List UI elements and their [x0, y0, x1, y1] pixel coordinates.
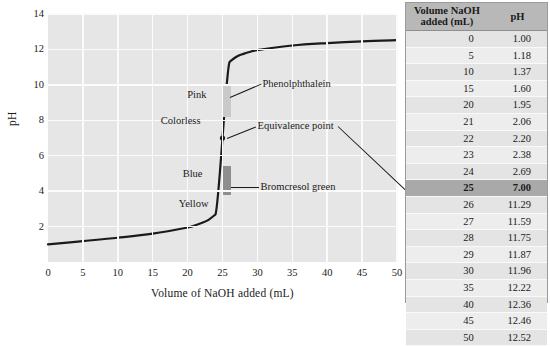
plot-area	[48, 14, 397, 262]
cell-ph: 2.20	[488, 130, 547, 147]
cell-ph: 12.22	[488, 279, 547, 296]
gridline-vertical	[117, 14, 119, 262]
cell-ph: 11.29	[488, 196, 547, 213]
table-row: 101.37	[406, 64, 547, 81]
table-row: 151.60	[406, 80, 547, 97]
cell-volume: 23	[406, 147, 488, 164]
cell-volume: 24	[406, 163, 488, 180]
table-row: 5012.52	[406, 329, 547, 346]
cell-ph: 1.95	[488, 97, 547, 114]
table-header-row: Volume NaOH added (mL) pH	[406, 3, 547, 31]
table-row: 51.18	[406, 47, 547, 64]
y-tick-label: 12	[4, 44, 44, 54]
x-tick-label: 45	[347, 268, 377, 278]
x-axis-ticks: 05101520253035404550	[48, 268, 397, 282]
header-volume-line2: added (mL)	[420, 16, 473, 27]
gridline-horizontal	[48, 155, 397, 157]
cell-ph: 2.69	[488, 163, 547, 180]
cell-volume: 21	[406, 113, 488, 130]
table-row: 201.95	[406, 97, 547, 114]
table-head: Volume NaOH added (mL) pH	[406, 3, 547, 31]
equivalence-point-annotation: Equivalence point	[258, 120, 334, 131]
gridline-horizontal	[48, 49, 397, 51]
x-tick-label: 35	[277, 268, 307, 278]
cell-ph: 11.75	[488, 230, 547, 247]
gridline-vertical	[187, 14, 189, 262]
label-pink: Pink	[0, 89, 207, 100]
header-ph: pH	[488, 3, 547, 31]
cell-ph: 12.46	[488, 313, 547, 330]
titration-chart: pH 1412108642 Pink Colorless Blue Yellow…	[0, 0, 405, 311]
cell-volume: 22	[406, 130, 488, 147]
cell-volume: 27	[406, 213, 488, 230]
gridline-vertical	[82, 14, 84, 262]
ph-data-table: Volume NaOH added (mL) pH 01.0051.18101.…	[405, 2, 548, 303]
phenolphthalein-annotation: Phenolphthalein	[263, 78, 331, 89]
cell-ph: 12.36	[488, 296, 547, 313]
label-blue: Blue	[0, 168, 203, 179]
table-row: 257.00	[406, 180, 547, 197]
x-tick-label: 0	[33, 268, 63, 278]
header-volume-line1: Volume NaOH	[414, 5, 480, 16]
cell-ph: 12.52	[488, 329, 547, 346]
cell-ph: 2.06	[488, 113, 547, 130]
cell-volume: 5	[406, 47, 488, 64]
table-row: 3011.96	[406, 263, 547, 280]
cell-ph: 7.00	[488, 180, 547, 197]
x-tick-label: 30	[242, 268, 272, 278]
gridline-horizontal	[48, 190, 397, 192]
bromcresol-green-leader-line	[231, 187, 259, 188]
table-body: 01.0051.18101.37151.60201.95212.06222.20…	[406, 31, 547, 346]
cell-ph: 11.96	[488, 263, 547, 280]
gridline-horizontal	[48, 13, 397, 15]
y-tick-label: 4	[4, 186, 44, 196]
table-row: 2811.75	[406, 230, 547, 247]
table-row: 01.00	[406, 31, 547, 48]
cell-volume: 35	[406, 279, 488, 296]
x-tick-label: 40	[312, 268, 342, 278]
gridline-vertical	[326, 14, 328, 262]
cell-volume: 0	[406, 31, 488, 48]
table-row: 4512.46	[406, 313, 547, 330]
cell-ph: 2.38	[488, 147, 547, 164]
label-colorless: Colorless	[0, 115, 201, 126]
gridline-vertical	[396, 14, 398, 262]
y-tick-label: 6	[4, 151, 44, 161]
x-axis-label: Volume of NaOH added (mL)	[48, 287, 397, 299]
cell-ph: 1.37	[488, 64, 547, 81]
gridline-vertical	[292, 14, 294, 262]
table-row: 212.06	[406, 113, 547, 130]
cell-volume: 30	[406, 263, 488, 280]
cell-ph: 1.18	[488, 47, 547, 64]
y-tick-label: 2	[4, 222, 44, 232]
y-axis-ticks: 1412108642	[0, 14, 44, 262]
x-tick-label: 20	[173, 268, 203, 278]
gridline-vertical	[222, 14, 224, 262]
table-row: 4012.36	[406, 296, 547, 313]
cell-volume: 10	[406, 64, 488, 81]
cell-volume: 50	[406, 329, 488, 346]
cell-ph: 1.60	[488, 80, 547, 97]
bromcresol-green-annotation: Bromcresol green	[261, 181, 336, 192]
cell-volume: 20	[406, 97, 488, 114]
gridline-vertical	[152, 14, 154, 262]
x-tick-label: 25	[208, 268, 238, 278]
header-volume: Volume NaOH added (mL)	[406, 3, 488, 31]
gridline-horizontal	[48, 84, 397, 86]
cell-volume: 29	[406, 246, 488, 263]
y-tick-label: 14	[4, 9, 44, 19]
label-yellow: Yellow	[0, 198, 209, 209]
cell-volume: 45	[406, 313, 488, 330]
table-row: 222.20	[406, 130, 547, 147]
table-row: 232.38	[406, 147, 547, 164]
table-row: 2711.59	[406, 213, 547, 230]
table-row: 2611.29	[406, 196, 547, 213]
cell-ph: 1.00	[488, 31, 547, 48]
table-row: 2911.87	[406, 246, 547, 263]
gridline-vertical	[361, 14, 363, 262]
x-tick-label: 10	[103, 268, 133, 278]
table-row: 3512.22	[406, 279, 547, 296]
cell-volume: 40	[406, 296, 488, 313]
cell-ph: 11.87	[488, 246, 547, 263]
